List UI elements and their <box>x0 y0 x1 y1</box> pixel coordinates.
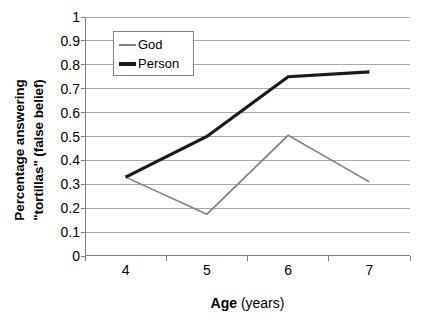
legend-label-person: Person <box>138 57 179 70</box>
y-axis-tick-label: 0.1 <box>46 225 80 239</box>
y-axis-title: Percentage answering "tortillas" (false … <box>7 25 51 275</box>
line-chart: Percentage answering "tortillas" (false … <box>0 0 421 336</box>
series-lines <box>126 72 370 214</box>
y-axis-tick-labels: 10.90.80.70.60.50.40.30.20.10 <box>46 17 80 256</box>
y-axis-tick-label: 0.9 <box>46 34 80 48</box>
y-axis-tick-label: 0.5 <box>46 130 80 144</box>
legend-line-icon-person <box>119 62 136 66</box>
legend-label-god: God <box>138 38 163 51</box>
x-axis-title: Age (years) <box>85 294 410 312</box>
legend: God Person <box>113 31 194 76</box>
series-line-god <box>126 135 370 214</box>
y-axis-tick-label: 0.7 <box>46 82 80 96</box>
y-axis-tick-label: 0.2 <box>46 201 80 215</box>
y-axis-title-line-1: Percentage answering <box>10 79 29 220</box>
y-axis-tick-label: 0.8 <box>46 58 80 72</box>
y-axis-tick-label: 0.6 <box>46 106 80 120</box>
legend-line-icon-god <box>119 44 136 46</box>
y-axis-tick-label: 1 <box>46 10 80 24</box>
legend-item-person[interactable]: Person <box>114 54 193 73</box>
x-axis-tick-label: 7 <box>365 262 373 278</box>
x-axis-tick-label: 5 <box>203 262 211 278</box>
x-axis-tick-label: 4 <box>122 262 130 278</box>
x-axis-tick-labels: 4567 <box>85 262 410 282</box>
y-axis-tick-label: 0.3 <box>46 177 80 191</box>
x-axis-title-plain: (years) <box>237 295 284 311</box>
x-axis-title-bold: Age <box>211 295 237 311</box>
x-axis-tick-label: 6 <box>284 262 292 278</box>
legend-item-god[interactable]: God <box>114 35 193 54</box>
y-axis-tick-label: 0 <box>46 249 80 263</box>
y-axis-tick-label: 0.4 <box>46 153 80 167</box>
